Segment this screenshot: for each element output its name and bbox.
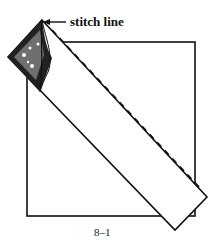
figure-caption: 8–1 (94, 226, 111, 238)
sewing-diagram (0, 0, 215, 249)
stitch-line-label: stitch line (70, 14, 124, 30)
